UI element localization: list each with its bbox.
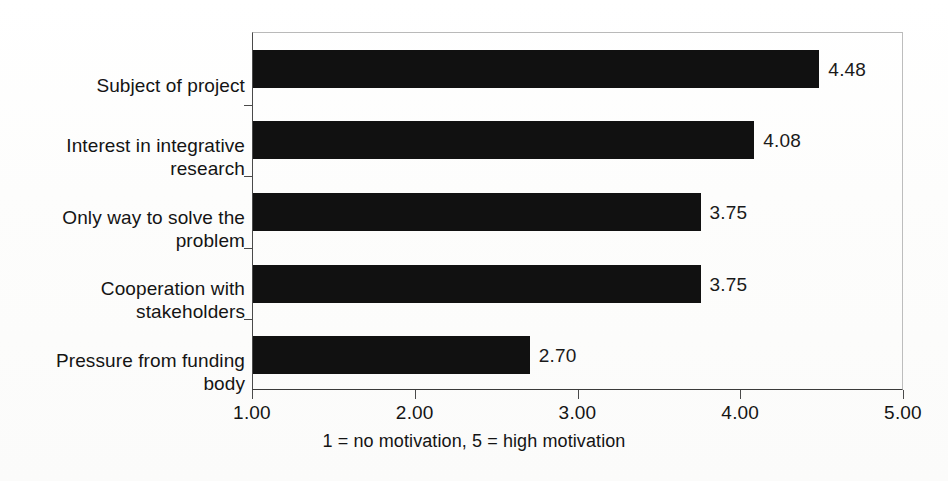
category-label-line: Interest in integrative xyxy=(0,134,245,157)
category-label: Subject of project xyxy=(0,74,245,97)
x-axis-tick xyxy=(903,390,904,399)
bar-row: 3.75 xyxy=(253,248,902,320)
bar-row: 4.08 xyxy=(253,105,902,177)
category-label: Interest in integrative research xyxy=(0,134,245,180)
y-axis-tick xyxy=(244,248,253,249)
bar[interactable] xyxy=(253,121,754,159)
category-label-line: problem xyxy=(0,229,245,252)
category-label-line: Pressure from funding xyxy=(0,349,245,372)
bar-row: 4.48 xyxy=(253,33,902,105)
y-axis-tick xyxy=(244,319,253,320)
bar-row: 3.75 xyxy=(253,176,902,248)
bar-value-label: 4.08 xyxy=(763,131,801,150)
category-label: Pressure from funding body xyxy=(0,349,245,395)
x-axis-tick-label: 1.00 xyxy=(233,403,271,422)
bar-value-label: 2.70 xyxy=(539,346,577,365)
bar-value-label: 3.75 xyxy=(710,274,748,293)
category-label-line: Only way to solve the xyxy=(0,206,245,229)
category-label: Cooperation with stakeholders xyxy=(0,277,245,323)
bar[interactable] xyxy=(253,336,530,374)
y-axis-tick xyxy=(244,176,253,177)
category-label: Only way to solve the problem xyxy=(0,206,245,252)
x-axis-tick-label: 2.00 xyxy=(396,403,434,422)
category-label-line: stakeholders xyxy=(0,300,245,323)
x-axis-tick xyxy=(578,390,579,399)
bar-value-label: 4.48 xyxy=(828,59,866,78)
bar-row: 2.70 xyxy=(253,319,902,391)
category-label-line: body xyxy=(0,372,245,395)
bar[interactable] xyxy=(253,265,701,303)
x-axis-tick xyxy=(252,390,253,399)
bar[interactable] xyxy=(253,193,701,231)
category-axis-labels: Subject of project Interest in integrati… xyxy=(0,32,245,390)
x-axis-tick-label: 4.00 xyxy=(721,403,759,422)
category-label-line: research xyxy=(0,157,245,180)
x-axis-tick xyxy=(740,390,741,399)
bar-value-label: 3.75 xyxy=(710,202,748,221)
category-label-line: Cooperation with xyxy=(0,277,245,300)
chart-page: Subject of project Interest in integrati… xyxy=(0,0,948,481)
x-axis-tick-label: 3.00 xyxy=(559,403,597,422)
category-label-line: Subject of project xyxy=(0,74,245,97)
bar[interactable] xyxy=(253,50,819,88)
x-axis-tick-label: 5.00 xyxy=(884,403,922,422)
y-axis-tick xyxy=(244,105,253,106)
plot-area: 4.48 4.08 3.75 3.75 2.70 xyxy=(252,32,903,390)
x-axis-caption: 1 = no motivation, 5 = high motivation xyxy=(0,432,948,450)
x-axis-tick xyxy=(415,390,416,399)
